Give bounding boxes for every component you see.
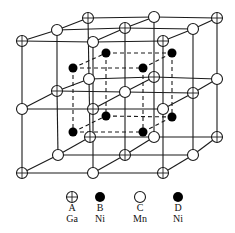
mn-atom-icon: [149, 132, 160, 143]
ga-atom-icon: [67, 192, 78, 203]
ga-atom-icon: [85, 132, 96, 143]
mn-atom-icon: [120, 87, 131, 98]
ga-atom-icon: [212, 132, 223, 143]
lattice-edge: [57, 91, 125, 92]
legend-item-a: AGa: [66, 192, 78, 225]
ni-atom-icon: [102, 49, 111, 58]
ni-atom-icon: [139, 128, 148, 137]
mn-atom-icon: [88, 37, 99, 48]
mn-atom-icon: [135, 192, 146, 203]
lattice-edge: [89, 77, 154, 79]
legend-item-b: BNi: [95, 192, 105, 224]
mn-atom-icon: [188, 24, 199, 35]
ga-atom-icon: [149, 72, 160, 83]
lattice-edge: [125, 92, 193, 93]
lattice-edge: [125, 28, 193, 29]
ni-atom-icon: [139, 64, 148, 73]
lattice-edge: [57, 28, 125, 30]
ga-atom-icon: [83, 13, 94, 24]
ni-atom-icon: [69, 64, 78, 73]
legend-symbol: C: [137, 202, 144, 213]
ga-atom-icon: [158, 36, 169, 47]
lattice-edge: [88, 18, 89, 79]
ga-atom-icon: [158, 168, 169, 179]
lattice-edge: [143, 117, 172, 132]
legend-item-c: CMn: [133, 192, 147, 225]
ga-atom-icon: [188, 88, 199, 99]
ni-atom-icon: [69, 128, 78, 137]
crystal-structure-diagram: AGaBNiCMnDNi: [0, 0, 235, 233]
legend-symbol: B: [97, 202, 104, 213]
legend-symbol: A: [68, 202, 76, 213]
lattice-edge: [106, 116, 172, 117]
legend-ni-marker-icon: [95, 192, 105, 202]
ga-atom-icon: [212, 13, 223, 24]
ga-atom-icon: [17, 168, 28, 179]
mn-atom-icon: [188, 150, 199, 161]
ga-atom-icon: [52, 86, 63, 97]
ga-atom-icon: [88, 104, 99, 115]
mn-atom-icon: [17, 104, 28, 115]
lattice-svg: AGaBNiCMnDNi: [0, 0, 235, 233]
legend: AGaBNiCMnDNi: [66, 192, 183, 225]
mn-atom-icon: [149, 12, 160, 23]
ga-atom-icon: [120, 150, 131, 161]
lattice-edge: [143, 53, 172, 68]
mn-atom-icon: [52, 25, 63, 36]
legend-element: Ni: [173, 213, 183, 224]
ni-atom-icon: [168, 49, 177, 58]
lattice-edge: [88, 17, 154, 18]
mn-atom-icon: [88, 168, 99, 179]
lattice-edge: [57, 91, 58, 155]
legend-element: Ga: [66, 213, 78, 224]
ni-atom-icon: [168, 113, 177, 122]
legend-item-d: DNi: [173, 192, 183, 224]
legend-element: Mn: [133, 213, 147, 224]
ga-atom-icon: [17, 36, 28, 47]
lattice-edge: [154, 17, 217, 18]
ni-atom-icon: [102, 112, 111, 121]
lattice-edge: [93, 41, 163, 42]
legend-element: Ni: [95, 213, 105, 224]
legend-ni-marker-icon: [173, 192, 183, 202]
mn-atom-icon: [84, 74, 95, 85]
lattice-edge: [73, 53, 106, 68]
mn-atom-icon: [53, 150, 64, 161]
legend-symbol: D: [174, 202, 181, 213]
ga-atom-icon: [120, 23, 131, 34]
mn-atom-icon: [212, 74, 223, 85]
mn-atom-icon: [158, 104, 169, 115]
